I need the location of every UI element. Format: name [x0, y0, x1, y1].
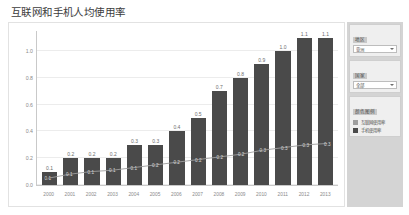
- bar-value-label: 0.5: [195, 111, 202, 117]
- bar-slot: 0.2: [81, 31, 102, 185]
- x-axis-tick-label: 2008: [208, 188, 229, 202]
- bar-value-label: 0.7: [216, 84, 223, 90]
- line-value-label: 0.1: [109, 168, 115, 173]
- bar[interactable]: 1.1: [297, 38, 312, 185]
- bar-slot: 0.7: [209, 31, 230, 185]
- bar-slot: 1.1: [294, 31, 315, 185]
- y-axis-tick-label: 1.0: [26, 48, 33, 54]
- bar[interactable]: 0.4: [169, 131, 184, 185]
- bar-value-label: 0.4: [173, 124, 180, 130]
- legend-item-label: 手机使用率: [361, 127, 381, 133]
- chevron-down-icon: [390, 48, 394, 50]
- x-axis-tick-label: 2005: [144, 188, 165, 202]
- bar-value-label: 0.9: [258, 57, 265, 63]
- x-axis-tick-label: 2009: [230, 188, 251, 202]
- country-select-value: 全部: [356, 82, 364, 88]
- line-value-label: 0.2: [238, 152, 244, 157]
- bar-slot: 0.8: [230, 31, 251, 185]
- region-select-value: 亚洲: [356, 46, 364, 52]
- y-axis-tick-label: 0.2: [26, 155, 33, 161]
- chart-card: 0.00.20.40.60.81.0 0.10.20.20.20.30.30.4…: [8, 22, 345, 207]
- region-select[interactable]: 亚洲: [353, 45, 397, 53]
- legend-swatch: [353, 120, 358, 125]
- x-axis-tick-label: 2004: [123, 188, 144, 202]
- chart-legend: 颜色图例 互联网使用率手机使用率: [349, 96, 401, 137]
- country-select[interactable]: 全部: [353, 81, 397, 89]
- legend-item-label: 互联网使用率: [361, 119, 385, 125]
- bar-slot: 1.0: [272, 31, 293, 185]
- bar[interactable]: 0.8: [233, 78, 248, 185]
- chart-dashboard: 互联网和手机人均使用率 0.00.20.40.60.81.0 0.10.20.2…: [0, 0, 409, 215]
- bar-value-label: 0.2: [67, 151, 74, 157]
- region-filter: 地区 亚洲: [349, 24, 401, 57]
- bar[interactable]: 0.5: [191, 118, 206, 185]
- chevron-down-icon: [390, 84, 394, 86]
- x-axis-tick-label: 2010: [251, 188, 272, 202]
- country-filter-label: 国家: [353, 73, 367, 79]
- y-axis-tick-label: 0.6: [26, 102, 33, 108]
- x-axis-tick-label: 2001: [59, 188, 80, 202]
- legend-swatch: [353, 128, 358, 133]
- bar-slot: 1.1: [315, 31, 336, 185]
- line-value-label: 0.2: [174, 160, 180, 165]
- bar-slot: 0.3: [124, 31, 145, 185]
- bar[interactable]: 1.0: [275, 51, 290, 185]
- x-axis-tick-label: 2002: [81, 188, 102, 202]
- line-value-label: 0.1: [88, 170, 94, 175]
- bar-value-label: 1.1: [301, 31, 308, 37]
- line-value-label: 0.3: [281, 146, 287, 151]
- bar-value-label: 0.8: [237, 71, 244, 77]
- line-value-label: 0.2: [152, 163, 158, 168]
- x-axis-tick-label: 2007: [187, 188, 208, 202]
- bar-slot: 0.3: [145, 31, 166, 185]
- x-axis-ticks: 2000200120022003200420052006200720082009…: [36, 188, 338, 202]
- region-filter-label: 地区: [353, 37, 367, 43]
- x-axis-tick-label: 2000: [38, 188, 59, 202]
- bar-slot: 0.2: [60, 31, 81, 185]
- legend-items: 互联网使用率手机使用率: [353, 119, 397, 133]
- line-value-label: 0.2: [195, 158, 201, 163]
- line-value-label: 0.1: [131, 166, 137, 171]
- bar[interactable]: 0.7: [212, 91, 227, 185]
- y-axis-tick-label: 0.4: [26, 128, 33, 134]
- bar[interactable]: 0.9: [254, 64, 269, 185]
- legend-label: 颜色图例: [353, 109, 377, 115]
- line-value-label: 0.3: [324, 142, 330, 147]
- bar-series: 0.10.20.20.20.30.30.40.50.70.80.91.01.11…: [37, 31, 338, 185]
- legend-item[interactable]: 互联网使用率: [353, 119, 397, 125]
- y-axis-tick-label: 0.0: [26, 182, 33, 188]
- control-panel: 地区 亚洲 国家 全部 颜色图例 互联网使用率手机使用率: [347, 22, 403, 207]
- bar-value-label: 0.3: [152, 138, 159, 144]
- line-value-label: 0.1: [45, 176, 51, 181]
- x-axis-tick-label: 2013: [315, 188, 336, 202]
- line-value-label: 0.2: [217, 155, 223, 160]
- bar-slot: 0.9: [251, 31, 272, 185]
- x-axis-tick-label: 2011: [272, 188, 293, 202]
- title-bar: 互联网和手机人均使用率: [0, 0, 409, 22]
- line-value-label: 0.1: [66, 172, 72, 177]
- bar-slot: 0.2: [103, 31, 124, 185]
- bar-value-label: 0.3: [131, 138, 138, 144]
- x-axis-tick-label: 2003: [102, 188, 123, 202]
- x-axis-tick-label: 2006: [166, 188, 187, 202]
- bar[interactable]: 1.1: [318, 38, 333, 185]
- bar-value-label: 1.0: [280, 44, 287, 50]
- plot-area: 0.00.20.40.60.81.0 0.10.20.20.20.30.30.4…: [36, 31, 338, 186]
- line-value-label: 0.3: [260, 148, 266, 153]
- x-axis-tick-label: 2012: [293, 188, 314, 202]
- bar-value-label: 1.1: [322, 31, 329, 37]
- bar-value-label: 0.2: [89, 151, 96, 157]
- bar-value-label: 0.2: [110, 151, 117, 157]
- bar-value-label: 0.1: [46, 165, 53, 171]
- line-value-label: 0.3: [303, 143, 309, 148]
- page-title: 互联网和手机人均使用率: [11, 4, 125, 19]
- country-filter: 国家 全部: [349, 60, 401, 93]
- bar-slot: 0.1: [39, 31, 60, 185]
- y-axis-tick-label: 0.8: [26, 75, 33, 81]
- legend-item[interactable]: 手机使用率: [353, 127, 397, 133]
